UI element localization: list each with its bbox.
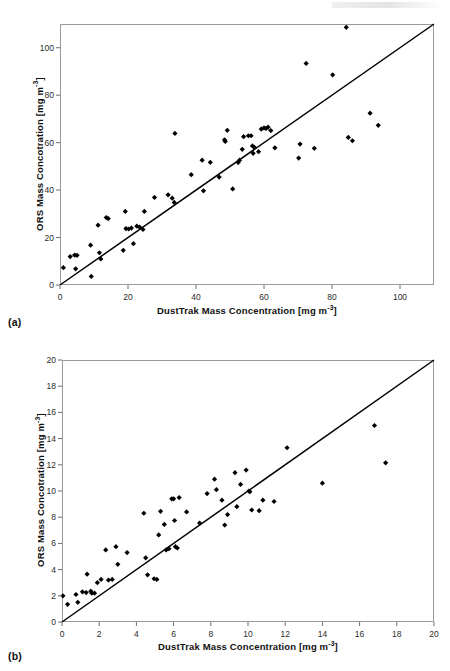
data-point xyxy=(234,504,239,509)
x-tick-label: 12 xyxy=(280,629,289,639)
data-point xyxy=(214,487,219,492)
data-point xyxy=(131,241,136,246)
data-point xyxy=(166,192,171,197)
data-point xyxy=(225,128,230,133)
data-point xyxy=(312,146,317,151)
x-tick-label: 10 xyxy=(243,629,252,639)
x-tick-label: 0 xyxy=(60,629,65,639)
data-point xyxy=(367,111,372,116)
data-point xyxy=(320,481,325,486)
y-tick-label: 20 xyxy=(28,355,56,365)
data-point xyxy=(376,123,381,128)
y-tick-label: 12 xyxy=(28,460,56,470)
data-point xyxy=(73,592,78,597)
data-point xyxy=(200,158,205,163)
data-point xyxy=(284,445,289,450)
data-point xyxy=(95,223,100,228)
data-point xyxy=(372,423,377,428)
figure-page: (a) ORS Mass Concotration [mg m-3] DustT… xyxy=(0,0,450,671)
identity-reference-line xyxy=(60,24,434,285)
data-point xyxy=(197,520,202,525)
y-tick-label: 18 xyxy=(28,381,56,391)
data-point xyxy=(141,511,146,516)
data-point xyxy=(170,196,175,201)
x-tick-label: 18 xyxy=(392,629,401,639)
data-point xyxy=(172,131,177,136)
chart-panel-a: (a) ORS Mass Concotration [mg m-3] DustT… xyxy=(0,0,450,340)
data-point xyxy=(145,572,150,577)
data-point xyxy=(115,562,120,567)
data-point xyxy=(244,467,249,472)
data-point xyxy=(143,555,148,560)
data-point xyxy=(110,577,115,582)
y-tick-label: 2 xyxy=(28,591,56,601)
x-tick-label: 8 xyxy=(208,629,213,639)
x-tick-label: 14 xyxy=(318,629,327,639)
data-point xyxy=(256,149,261,154)
y-tick-label: 80 xyxy=(26,90,54,100)
y-tick-label: 10 xyxy=(28,486,56,496)
data-point xyxy=(158,509,163,514)
y-tick-label: 40 xyxy=(26,185,54,195)
data-point xyxy=(219,498,224,503)
plot-wrap-a: ORS Mass Concotration [mg m-3] DustTrak … xyxy=(0,0,450,300)
data-point xyxy=(212,477,217,482)
x-tick-label: 20 xyxy=(123,292,132,302)
data-point xyxy=(330,72,335,77)
x-tick-label: 4 xyxy=(134,629,139,639)
data-point xyxy=(230,186,235,191)
data-point xyxy=(177,495,182,500)
x-tick-label: 6 xyxy=(171,629,176,639)
data-point xyxy=(89,274,94,279)
data-point xyxy=(68,254,73,259)
data-point xyxy=(84,590,89,595)
data-point xyxy=(240,147,245,152)
data-point xyxy=(123,209,128,214)
chart-panel-b: (b) ORS Mass Concotration [mg m-3] DustT… xyxy=(0,340,450,671)
data-point xyxy=(88,243,93,248)
data-point xyxy=(383,460,388,465)
data-point xyxy=(257,508,262,513)
data-point xyxy=(272,145,277,150)
data-point xyxy=(249,507,254,512)
y-tick-label: 100 xyxy=(26,43,54,53)
y-tick-label: 0 xyxy=(26,280,54,290)
data-point xyxy=(241,134,246,139)
data-point xyxy=(222,522,227,527)
data-point xyxy=(65,602,70,607)
x-tick-label: 100 xyxy=(393,292,407,302)
data-point xyxy=(184,509,189,514)
data-point xyxy=(121,248,126,253)
data-point xyxy=(125,550,130,555)
plot-wrap-b: ORS Mass Concotration [mg m-3] DustTrak … xyxy=(0,340,450,640)
data-point xyxy=(189,172,194,177)
data-point xyxy=(75,600,80,605)
data-point xyxy=(204,491,209,496)
data-point xyxy=(304,61,309,66)
data-point xyxy=(346,135,351,140)
data-point xyxy=(152,195,157,200)
data-point xyxy=(156,532,161,537)
x-tick-label: 0 xyxy=(58,292,63,302)
data-point xyxy=(225,512,230,517)
y-tick-label: 6 xyxy=(28,538,56,548)
scatter-plot-b xyxy=(0,340,450,660)
data-point xyxy=(103,547,108,552)
y-tick-label: 16 xyxy=(28,407,56,417)
x-tick-label: 20 xyxy=(429,629,438,639)
x-tick-label: 2 xyxy=(97,629,102,639)
data-point xyxy=(98,577,103,582)
x-tick-label: 60 xyxy=(259,292,268,302)
data-point xyxy=(271,499,276,504)
data-point xyxy=(350,138,355,143)
y-tick-label: 0 xyxy=(28,617,56,627)
data-point xyxy=(162,522,167,527)
y-tick-label: 8 xyxy=(28,512,56,522)
data-point xyxy=(296,155,301,160)
data-point xyxy=(73,266,78,271)
data-point xyxy=(113,544,118,549)
data-point xyxy=(172,518,177,523)
data-point xyxy=(238,482,243,487)
data-point xyxy=(85,572,90,577)
y-tick-label: 4 xyxy=(28,565,56,575)
